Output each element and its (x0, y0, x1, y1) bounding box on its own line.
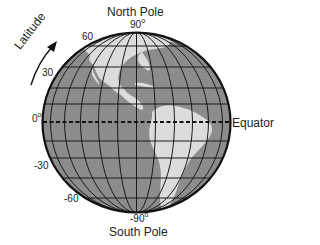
south-pole-label: South Pole (109, 226, 168, 238)
latitude-tick-minus-90: -90o (130, 214, 148, 224)
latitude-tick-30: 30 (42, 68, 53, 78)
tick-value: 0 (32, 113, 38, 124)
latitude-tick-60: 60 (82, 32, 93, 42)
degree-symbol: o (38, 111, 42, 118)
degree-symbol: o (141, 17, 145, 24)
north-pole-label: North Pole (107, 6, 164, 18)
equator-label: Equator (232, 117, 274, 129)
degree-symbol: o (144, 211, 148, 218)
latitude-tick-0: 0o (32, 114, 41, 124)
tick-value: 90 (130, 19, 141, 30)
latitude-tick-90: 90o (130, 20, 145, 30)
tick-value: -90 (130, 213, 144, 224)
latitude-arrow-icon (31, 41, 57, 85)
latitude-tick-minus-60: -60 (64, 194, 78, 204)
latitude-tick-minus-30: -30 (34, 161, 48, 171)
